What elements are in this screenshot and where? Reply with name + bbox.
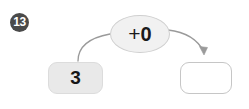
problem-number-badge: 13 <box>10 13 29 32</box>
operator-to-output-arrow-icon <box>168 30 204 52</box>
arrowhead-icon <box>200 47 208 56</box>
input-value-box: 3 <box>48 62 103 94</box>
input-value-text: 3 <box>70 68 81 87</box>
worksheet-item-canvas: 13 +0 3 <box>0 0 249 109</box>
operator-bubble: +0 <box>110 15 170 53</box>
operator-label: +0 <box>128 23 151 44</box>
input-to-operator-arrow-icon <box>78 34 110 61</box>
output-answer-box[interactable] <box>180 62 232 94</box>
